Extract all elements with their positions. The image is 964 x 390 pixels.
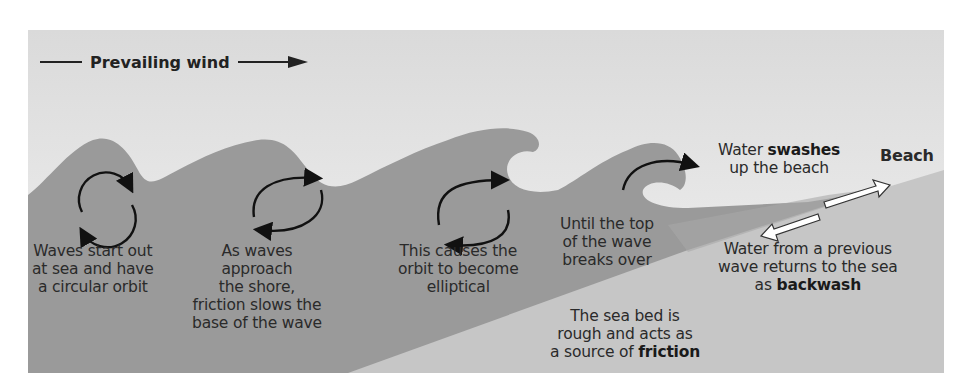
caption-line: of the wave (560, 233, 654, 251)
caption-line: Waves start out (32, 242, 154, 260)
caption-text: as (755, 276, 777, 294)
seabed-caption: The sea bed is rough and acts as a sourc… (550, 307, 700, 361)
beach-label: Beach (880, 147, 934, 165)
caption-line: elliptical (398, 278, 519, 296)
wind-line-icon (40, 60, 82, 64)
caption-line: approach (192, 260, 322, 278)
swash-caption: Water swashes up the beach (718, 141, 840, 177)
caption-line: As waves (192, 242, 322, 260)
backwash-line-3: as backwash (718, 276, 898, 294)
caption-line: breaks over (560, 251, 654, 269)
diagram-background (28, 30, 944, 373)
caption-line: Until the top (560, 215, 654, 233)
stage-3-caption: This causes the orbit to become elliptic… (398, 242, 519, 296)
stage-4-caption: Until the top of the wave breaks over (560, 215, 654, 269)
backwash-line-1: Water from a previous (718, 240, 898, 258)
caption-line: friction slows the (192, 296, 322, 314)
caption-line: orbit to become (398, 260, 519, 278)
stage-1-caption: Waves start out at sea and have a circul… (32, 242, 154, 296)
caption-line: This causes the (398, 242, 519, 260)
backwash-line-2: wave returns to the sea (718, 258, 898, 276)
seabed-line-2: rough and acts as (550, 325, 700, 343)
caption-line: the shore, (192, 278, 322, 296)
caption-line: a circular orbit (32, 278, 154, 296)
wind-arrow-icon (238, 55, 308, 69)
prevailing-wind-label: Prevailing wind (40, 50, 308, 74)
caption-text: a source of (550, 343, 638, 361)
prevailing-wind-text: Prevailing wind (90, 53, 230, 72)
caption-line: base of the wave (192, 314, 322, 332)
backwash-caption: Water from a previous wave returns to th… (718, 240, 898, 294)
seabed-line-3: a source of friction (550, 343, 700, 361)
swash-line-1: Water swashes (718, 141, 840, 159)
swash-term: swashes (768, 141, 841, 159)
friction-term: friction (638, 343, 700, 361)
backwash-term: backwash (776, 276, 861, 294)
caption-text: Water (718, 141, 768, 159)
wave-diagram: Prevailing wind Waves start out at sea a… (28, 30, 944, 373)
swash-line-2: up the beach (718, 159, 840, 177)
seabed-line-1: The sea bed is (550, 307, 700, 325)
stage-2-caption: As waves approach the shore, friction sl… (192, 242, 322, 332)
caption-line: at sea and have (32, 260, 154, 278)
